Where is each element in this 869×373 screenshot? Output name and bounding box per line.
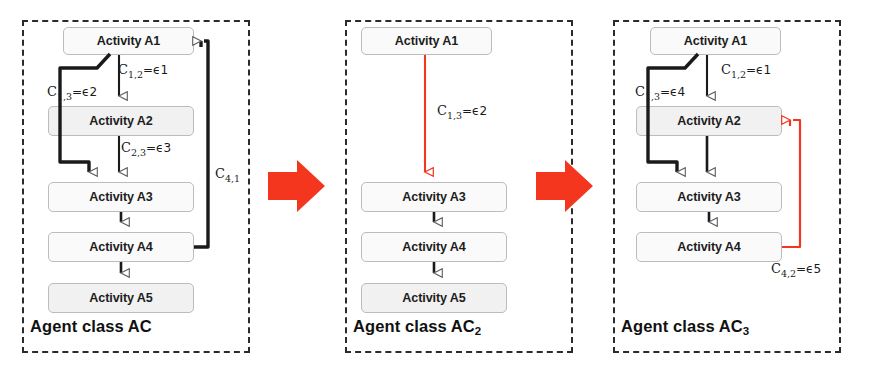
panel-label-text: Agent class AC — [621, 317, 743, 335]
edge-label-subscript: 1,3 — [645, 91, 660, 102]
node-a1-panel3[interactable]: Activity A1 — [650, 27, 781, 55]
panel-label-text: Agent class AC — [30, 317, 152, 335]
edge-label-c: C — [121, 140, 131, 155]
panel-label-ac: Agent class AC — [30, 317, 152, 336]
edge-label-value: =ϵ1 — [746, 63, 771, 77]
node-a3-panel2[interactable]: Activity A3 — [361, 182, 507, 212]
edge-label-value: =ϵ4 — [660, 85, 685, 99]
node-label: Activity A3 — [402, 190, 466, 204]
panel-label-ac3: Agent class AC3 — [621, 317, 749, 336]
node-label: Activity A5 — [89, 291, 153, 305]
node-label: Activity A5 — [402, 291, 466, 305]
panel-label-text: Agent class AC — [353, 317, 475, 335]
node-a5-panel1[interactable]: Activity A5 — [48, 283, 194, 313]
node-a1-panel1[interactable]: Activity A1 — [63, 27, 194, 55]
node-a3-panel3[interactable]: Activity A3 — [636, 182, 782, 212]
edge-label-c13-panel3: C1,3=ϵ4 — [635, 84, 685, 99]
edge-label-subscript: 4,2 — [781, 268, 796, 279]
edge-label-c: C — [47, 84, 57, 99]
transition-arrow-1 — [268, 160, 325, 212]
node-a2-panel3[interactable]: Activity A2 — [636, 106, 782, 136]
node-label: Activity A4 — [402, 240, 466, 254]
node-label: Activity A1 — [97, 34, 161, 48]
edge-label-c: C — [215, 166, 225, 181]
edge-label-c13-panel1: C1,3=ϵ2 — [47, 84, 97, 99]
node-label: Activity A4 — [89, 240, 153, 254]
edge-label-c41-panel1: C4,1 — [215, 166, 240, 181]
node-label: Activity A2 — [89, 114, 153, 128]
edge-label-subscript: 1,2 — [731, 69, 746, 80]
edge-label-c: C — [721, 62, 731, 77]
edge-label-c12-panel3: C1,2=ϵ1 — [721, 62, 771, 77]
edge-label-c42-panel3: C4,2=ϵ5 — [771, 261, 821, 276]
node-a4-panel2[interactable]: Activity A4 — [361, 232, 507, 262]
edge-label-c13-panel2: C1,3=ϵ2 — [437, 103, 487, 118]
edge-label-value: =ϵ3 — [146, 141, 171, 155]
figure-canvas: Activity A1 Activity A2 Activity A3 Acti… — [0, 0, 869, 373]
node-a1-panel2[interactable]: Activity A1 — [361, 27, 492, 55]
edge-label-value: =ϵ2 — [72, 85, 97, 99]
edge-label-c12-panel1: C1,2=ϵ1 — [118, 62, 168, 77]
node-a2-panel1[interactable]: Activity A2 — [48, 106, 194, 136]
node-label: Activity A4 — [677, 240, 741, 254]
edge-label-value: =ϵ5 — [796, 262, 821, 276]
edge-label-subscript: 4,1 — [225, 173, 240, 184]
panel-label-subscript: 3 — [743, 325, 750, 337]
edge-label-value: =ϵ2 — [462, 104, 487, 118]
node-a3-panel1[interactable]: Activity A3 — [48, 182, 194, 212]
node-label: Activity A2 — [677, 114, 741, 128]
node-label: Activity A3 — [677, 190, 741, 204]
panel-label-subscript: 2 — [475, 325, 482, 337]
node-label: Activity A1 — [395, 34, 459, 48]
edge-label-subscript: 1,2 — [128, 69, 143, 80]
edge-label-subscript: 1,3 — [447, 110, 462, 121]
node-a4-panel1[interactable]: Activity A4 — [48, 232, 194, 262]
node-a5-panel2[interactable]: Activity A5 — [361, 283, 507, 313]
edge-label-subscript: 2,3 — [131, 147, 146, 158]
node-label: Activity A1 — [684, 34, 748, 48]
edge-label-subscript: 1,3 — [57, 91, 72, 102]
node-label: Activity A3 — [89, 190, 153, 204]
edge-label-c: C — [771, 261, 781, 276]
edge-label-c23-panel1: C2,3=ϵ3 — [121, 140, 171, 155]
edge-label-c: C — [635, 84, 645, 99]
edge-label-c: C — [437, 103, 447, 118]
panel-label-ac2: Agent class AC2 — [353, 317, 481, 336]
edge-label-c: C — [118, 62, 128, 77]
edge-label-value: =ϵ1 — [143, 63, 168, 77]
node-a4-panel3[interactable]: Activity A4 — [636, 232, 782, 262]
